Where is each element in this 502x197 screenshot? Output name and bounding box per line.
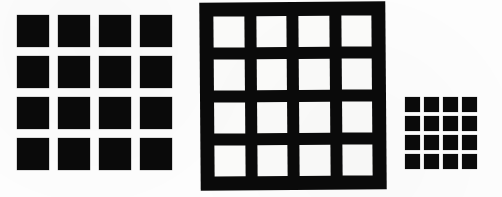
- grid-cell: [58, 97, 90, 129]
- grid-cell: [443, 154, 458, 169]
- grid-cell: [405, 154, 420, 169]
- large-black-square-grid: [17, 15, 173, 171]
- grid-cell: [424, 97, 439, 112]
- grid-cell: [140, 97, 172, 129]
- grid-cell: [257, 145, 288, 176]
- grid-cell: [462, 135, 477, 150]
- grid-cell: [341, 58, 372, 89]
- grid-cell: [341, 15, 372, 46]
- grid-cell: [462, 97, 477, 112]
- grid-cell: [405, 135, 420, 150]
- grid-cell: [342, 101, 373, 132]
- grid-cell: [298, 16, 329, 47]
- grid-cell: [256, 16, 287, 47]
- grid-cell: [214, 145, 245, 176]
- grid-cell: [424, 154, 439, 169]
- grid-cell: [99, 97, 131, 129]
- grid-cell: [405, 97, 420, 112]
- grid-cell: [443, 116, 458, 131]
- grid-cell: [58, 56, 90, 88]
- small-black-square-grid: [405, 97, 478, 172]
- grid-cell: [58, 15, 90, 47]
- grid-cell: [256, 59, 287, 90]
- grid-cell: [424, 135, 439, 150]
- grid-cell: [140, 138, 172, 170]
- image-canvas: [0, 0, 502, 197]
- grid-cell: [299, 102, 330, 133]
- black-slab-with-white-square-holes: [199, 1, 386, 190]
- grid-cell: [214, 59, 245, 90]
- grid-cell: [462, 154, 477, 169]
- grid-cell: [58, 138, 90, 170]
- grid-cell: [299, 59, 330, 90]
- grid-cell: [140, 15, 172, 47]
- grid-cell: [424, 116, 439, 131]
- grid-cell: [99, 56, 131, 88]
- grid-cell: [462, 116, 477, 131]
- grid-cell: [140, 56, 172, 88]
- grid-cell: [99, 138, 131, 170]
- grid-cell: [99, 15, 131, 47]
- grid-cell: [17, 56, 49, 88]
- grid-cell: [17, 138, 49, 170]
- grid-cell: [214, 102, 245, 133]
- grid-cell: [257, 102, 288, 133]
- grid-cell: [17, 97, 49, 129]
- grid-cell: [213, 16, 244, 47]
- grid-cell: [17, 15, 49, 47]
- grid-cell: [405, 116, 420, 131]
- grid-cell: [299, 145, 330, 176]
- grid-cell: [342, 144, 373, 175]
- grid-cell: [443, 97, 458, 112]
- grid-cell: [443, 135, 458, 150]
